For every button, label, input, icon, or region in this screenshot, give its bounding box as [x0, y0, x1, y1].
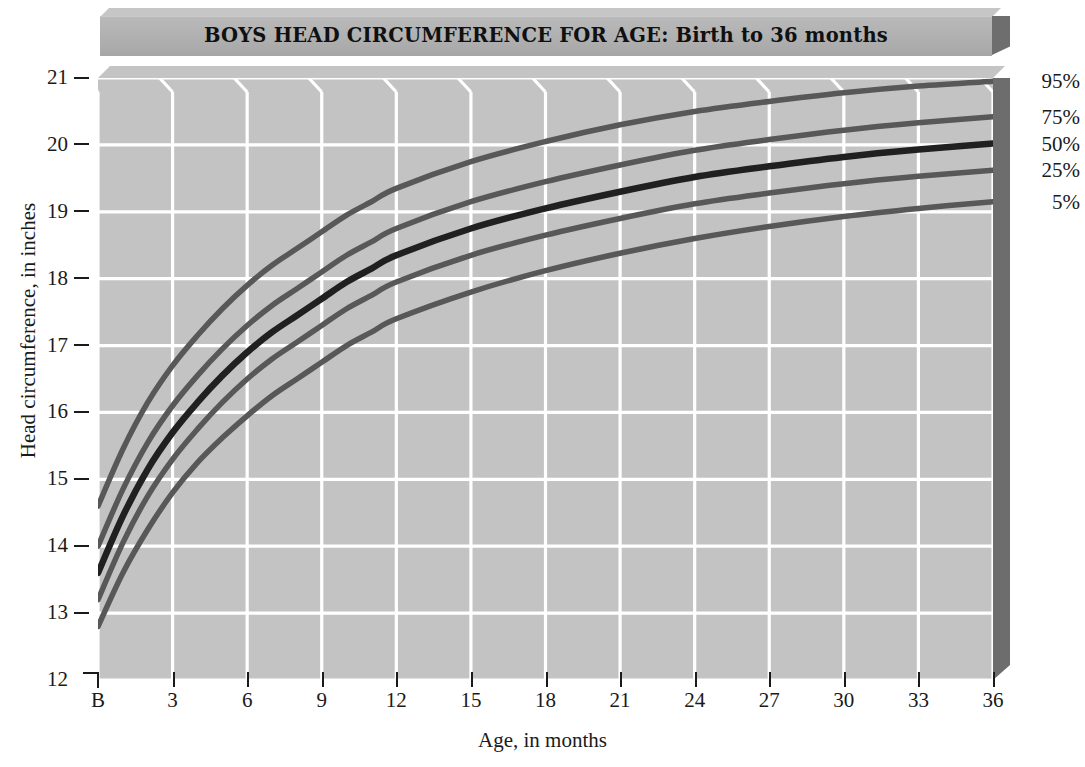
- x-tick-15: 15: [446, 688, 496, 713]
- legend-label-75: 75%: [1018, 105, 1080, 130]
- plot-canvas: [98, 78, 993, 680]
- legend-label-25: 25%: [1018, 158, 1080, 183]
- x-tick-mark: [322, 672, 324, 687]
- x-tick-21: 21: [595, 688, 645, 713]
- axis-corner-vertical: [97, 672, 99, 688]
- x-tick-12: 12: [371, 688, 421, 713]
- plot-side-bevel: [993, 78, 1010, 680]
- y-tick-mark: [74, 478, 89, 480]
- x-tick-6: 6: [222, 688, 272, 713]
- x-tick-mark: [247, 672, 249, 687]
- x-tick-24: 24: [670, 688, 720, 713]
- y-tick-label: 17: [47, 333, 68, 357]
- y-tick-mark: [74, 411, 89, 413]
- y-tick-mark: [74, 612, 89, 614]
- legend-label-50: 50%: [1018, 132, 1080, 157]
- x-tick-B: B: [73, 688, 123, 713]
- y-tick-mark: [74, 143, 89, 145]
- x-tick-mark: [993, 672, 995, 687]
- x-tick-mark: [173, 672, 175, 687]
- chart-svg: [98, 78, 993, 680]
- x-tick-30: 30: [819, 688, 869, 713]
- y-tick-label: 18: [47, 266, 68, 290]
- x-axis-title: Age, in months: [0, 728, 1085, 753]
- x-tick-3: 3: [148, 688, 198, 713]
- x-tick-mark: [471, 672, 473, 687]
- growth-chart-page: BOYS HEAD CIRCUMFERENCE FOR AGE: Birth t…: [0, 0, 1085, 767]
- chart-title-bar: BOYS HEAD CIRCUMFERENCE FOR AGE: Birth t…: [100, 8, 1010, 55]
- y-tick-label: 13: [47, 600, 68, 624]
- legend-label-95: 95%: [1018, 69, 1080, 94]
- y-tick-label: 14: [47, 533, 68, 557]
- x-tick-27: 27: [744, 688, 794, 713]
- title-bar-side-bevel: [992, 16, 1010, 55]
- x-tick-36: 36: [968, 688, 1018, 713]
- y-tick-label: 19: [47, 199, 68, 223]
- x-tick-mark: [695, 672, 697, 687]
- y-tick-13: 13: [22, 602, 68, 623]
- page-title: BOYS HEAD CIRCUMFERENCE FOR AGE: Birth t…: [100, 16, 992, 55]
- y-axis-title: Head circumference, in inches: [16, 121, 41, 541]
- x-tick-33: 33: [893, 688, 943, 713]
- x-tick-mark: [620, 672, 622, 687]
- y-tick-label: 16: [47, 399, 68, 423]
- plot-top-bevel: [98, 66, 1005, 78]
- y-tick-label: 12: [47, 667, 68, 691]
- y-tick-mark: [74, 77, 89, 79]
- x-tick-9: 9: [297, 688, 347, 713]
- y-tick-label: 21: [47, 65, 68, 89]
- x-tick-mark: [918, 672, 920, 687]
- y-tick-mark: [74, 344, 89, 346]
- y-tick-12: 12: [22, 669, 68, 690]
- y-tick-mark: [74, 277, 89, 279]
- plot-area: [98, 66, 1010, 682]
- x-tick-mark: [844, 672, 846, 687]
- y-tick-21: 21: [22, 67, 68, 88]
- y-tick-label: 20: [47, 132, 68, 156]
- y-tick-mark: [74, 545, 89, 547]
- x-tick-18: 18: [521, 688, 571, 713]
- x-tick-mark: [546, 672, 548, 687]
- y-tick-mark: [74, 210, 89, 212]
- y-tick-label: 15: [47, 466, 68, 490]
- legend-label-5: 5%: [1018, 190, 1080, 215]
- x-tick-mark: [396, 672, 398, 687]
- x-tick-mark: [769, 672, 771, 687]
